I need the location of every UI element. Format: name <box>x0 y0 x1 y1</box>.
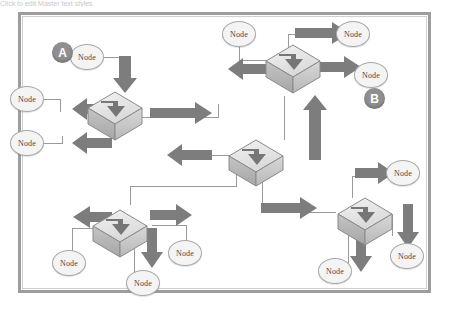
node-bl-left[interactable]: Node <box>52 250 86 276</box>
node-bl-right[interactable]: Node <box>168 240 202 266</box>
node-left-upper[interactable]: Node <box>10 86 44 112</box>
switch-top-right-graphic <box>266 45 320 93</box>
node-top-right[interactable]: Node <box>336 21 370 47</box>
node-br-top[interactable]: Node <box>386 160 420 186</box>
node-bl-center[interactable]: Node <box>126 270 160 296</box>
node-right-upper[interactable]: Node <box>354 62 388 88</box>
node-a[interactable]: Node <box>70 44 104 70</box>
node-top-center[interactable]: Node <box>222 21 256 47</box>
diagram-page: Click to edit Master text styles <box>0 0 451 310</box>
node-br-left[interactable]: Node <box>318 258 352 284</box>
badge-b[interactable]: B <box>364 88 385 109</box>
node-left-lower[interactable]: Node <box>10 130 44 156</box>
node-br-right[interactable]: Node <box>390 243 424 269</box>
badge-a[interactable]: A <box>52 42 73 63</box>
switch-left-graphic <box>88 92 142 140</box>
switch-bottom-right-graphic <box>338 198 392 245</box>
switch-center-graphic <box>229 140 283 186</box>
